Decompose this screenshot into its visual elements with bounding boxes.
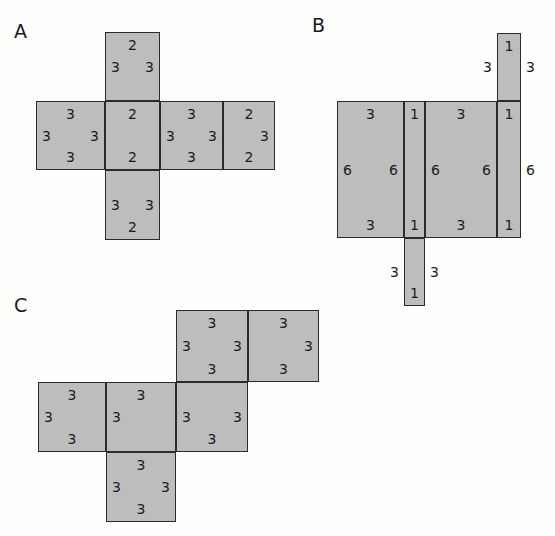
edge-number: 3 <box>182 410 191 424</box>
edge-number: 3 <box>112 480 121 494</box>
edge-number: 3 <box>137 502 146 516</box>
edge-number: 3 <box>279 316 288 330</box>
edge-number: 3 <box>233 410 242 424</box>
c-mid-right: 333 <box>176 382 248 452</box>
edge-number: 3 <box>208 362 217 376</box>
edge-number: 3 <box>208 316 217 330</box>
edge-number: 3 <box>68 388 77 402</box>
edge-number: 3 <box>112 410 121 424</box>
c-top-left: 3333 <box>176 310 248 382</box>
c-mid-left: 333 <box>38 382 106 452</box>
edge-number: 3 <box>233 339 242 353</box>
net-panel-c: 3333333333333333333 <box>0 0 555 536</box>
c-bottom: 3333 <box>106 452 176 522</box>
edge-number: 3 <box>304 339 313 353</box>
edge-number: 3 <box>279 362 288 376</box>
edge-number: 3 <box>137 388 146 402</box>
c-top-right: 333 <box>248 310 319 382</box>
figure-canvas: A B C 2333333223333232332133366311366316… <box>0 0 555 536</box>
c-mid-center: 33 <box>106 382 176 452</box>
edge-number: 3 <box>68 432 77 446</box>
edge-number: 3 <box>208 432 217 446</box>
edge-number: 3 <box>161 480 170 494</box>
edge-number: 3 <box>44 410 53 424</box>
edge-number: 3 <box>137 458 146 472</box>
edge-number: 3 <box>182 339 191 353</box>
